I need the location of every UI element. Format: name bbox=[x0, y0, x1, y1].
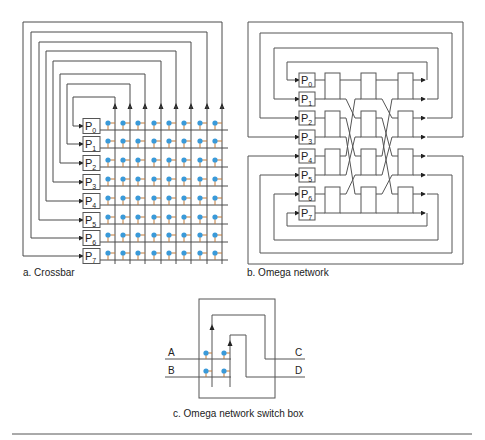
crosspoint-switch-icon bbox=[151, 250, 156, 255]
crosspoint-switch-icon bbox=[151, 232, 156, 237]
crosspoint-switch-icon bbox=[105, 195, 110, 200]
crosspoint-switch-icon bbox=[197, 176, 202, 181]
crosspoint-switch-icon bbox=[212, 214, 217, 219]
omega-network-panel: P0P1P2P3P4P5P6P7 bbox=[248, 22, 463, 264]
crosspoint-switch-icon bbox=[151, 214, 156, 219]
switch-box-panel: ABCD bbox=[165, 299, 305, 398]
crosspoint-switch-icon bbox=[151, 157, 156, 162]
output-label-c: C bbox=[295, 347, 302, 358]
switch-box-caption: c. Omega network switch box bbox=[173, 408, 304, 419]
crosspoint-switch-icon bbox=[203, 350, 208, 355]
crosspoint-switch-icon bbox=[212, 157, 217, 162]
crosspoint-switch-icon bbox=[212, 120, 217, 125]
crosspoint-switch-icon bbox=[197, 120, 202, 125]
crosspoint-switch-icon bbox=[166, 120, 171, 125]
omega-feedback-line bbox=[260, 33, 452, 118]
crosspoint-switch-icon bbox=[105, 120, 110, 125]
switch-box-outline bbox=[199, 299, 275, 398]
omega-switch-box bbox=[325, 73, 340, 99]
crossbar-panel: P0P1P2P3P4P5P6P7 bbox=[23, 22, 228, 264]
crosspoint-switch-icon bbox=[120, 138, 125, 143]
omega-switch-box bbox=[361, 111, 376, 137]
omega-switch-box bbox=[398, 73, 413, 99]
crosspoint-switch-icon bbox=[105, 250, 110, 255]
crosspoint-switch-icon bbox=[197, 232, 202, 237]
crosspoint-switch-icon bbox=[197, 157, 202, 162]
omega-switch-box bbox=[361, 187, 376, 213]
crosspoint-switch-icon bbox=[166, 214, 171, 219]
crosspoint-switch-icon bbox=[212, 138, 217, 143]
output-route-d bbox=[230, 335, 305, 377]
omega-caption: b. Omega network bbox=[247, 267, 330, 278]
crosspoint-switch-icon bbox=[166, 250, 171, 255]
crosspoint-switch-icon bbox=[203, 368, 208, 373]
crossbar-caption: a. Crossbar bbox=[23, 267, 75, 278]
crosspoint-switch-icon bbox=[151, 176, 156, 181]
crosspoint-switch-icon bbox=[105, 214, 110, 219]
omega-shuffle-link bbox=[376, 99, 398, 118]
crosspoint-switch-icon bbox=[166, 195, 171, 200]
crosspoint-switch-icon bbox=[212, 232, 217, 237]
crosspoint-switch-icon bbox=[120, 195, 125, 200]
crosspoint-switch-icon bbox=[135, 250, 140, 255]
crosspoint-switch-icon bbox=[120, 250, 125, 255]
crosspoint-switch-icon bbox=[166, 138, 171, 143]
input-label-a: A bbox=[168, 347, 175, 358]
omega-switch-box bbox=[398, 149, 413, 175]
omega-switch-box bbox=[325, 111, 340, 137]
crosspoint-switch-icon bbox=[197, 214, 202, 219]
crosspoint-switch-icon bbox=[221, 368, 226, 373]
omega-feedback-line bbox=[260, 175, 452, 253]
crosspoint-switch-icon bbox=[120, 120, 125, 125]
input-label-b: B bbox=[168, 365, 175, 376]
output-label-d: D bbox=[295, 365, 302, 376]
crosspoint-switch-icon bbox=[120, 232, 125, 237]
crosspoint-switch-icon bbox=[212, 250, 217, 255]
omega-shuffle-link bbox=[340, 99, 361, 118]
omega-switch-box bbox=[361, 73, 376, 99]
crosspoint-switch-icon bbox=[181, 120, 186, 125]
omega-switch-box bbox=[325, 149, 340, 175]
crosspoint-switch-icon bbox=[135, 138, 140, 143]
crosspoint-switch-icon bbox=[181, 157, 186, 162]
crosspoint-switch-icon bbox=[181, 195, 186, 200]
crosspoint-switch-icon bbox=[135, 232, 140, 237]
crosspoint-switch-icon bbox=[105, 176, 110, 181]
crosspoint-switch-icon bbox=[151, 138, 156, 143]
crosspoint-switch-icon bbox=[135, 157, 140, 162]
crosspoint-switch-icon bbox=[181, 138, 186, 143]
crossbar-feedback-line bbox=[31, 32, 207, 238]
crosspoint-switch-icon bbox=[135, 214, 140, 219]
crosspoint-switch-icon bbox=[212, 195, 217, 200]
crosspoint-switch-icon bbox=[135, 176, 140, 181]
figure-canvas: P0P1P2P3P4P5P6P7 a. Crossbar P0P1P2P3P4P… bbox=[0, 0, 485, 440]
crosspoint-switch-icon bbox=[151, 195, 156, 200]
omega-switch-box bbox=[398, 187, 413, 213]
crosspoint-switch-icon bbox=[105, 232, 110, 237]
crosspoint-switch-icon bbox=[151, 120, 156, 125]
omega-feedback-line bbox=[248, 156, 463, 264]
crosspoint-switch-icon bbox=[212, 176, 217, 181]
crosspoint-switch-icon bbox=[181, 214, 186, 219]
crosspoint-switch-icon bbox=[181, 250, 186, 255]
crosspoint-switch-icon bbox=[181, 232, 186, 237]
crosspoint-switch-icon bbox=[221, 350, 226, 355]
crosspoint-switch-icon bbox=[135, 195, 140, 200]
crosspoint-switch-icon bbox=[197, 250, 202, 255]
crosspoint-switch-icon bbox=[181, 176, 186, 181]
crosspoint-switch-icon bbox=[120, 214, 125, 219]
crosspoint-switch-icon bbox=[105, 138, 110, 143]
omega-switch-box bbox=[325, 187, 340, 213]
crosspoint-switch-icon bbox=[105, 157, 110, 162]
crosspoint-switch-icon bbox=[197, 195, 202, 200]
omega-shuffle-link bbox=[340, 175, 361, 194]
crosspoint-switch-icon bbox=[120, 176, 125, 181]
crosspoint-switch-icon bbox=[166, 176, 171, 181]
crosspoint-switch-icon bbox=[120, 157, 125, 162]
crosspoint-switch-icon bbox=[197, 138, 202, 143]
omega-switch-box bbox=[361, 149, 376, 175]
crosspoint-switch-icon bbox=[135, 120, 140, 125]
omega-shuffle-link bbox=[376, 175, 398, 194]
omega-switch-box bbox=[398, 111, 413, 137]
crosspoint-switch-icon bbox=[166, 232, 171, 237]
